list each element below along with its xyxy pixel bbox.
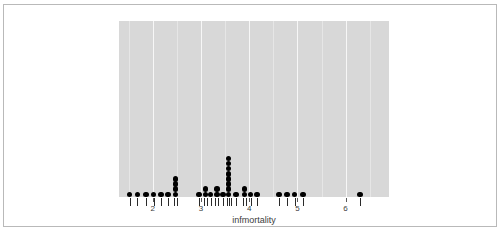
dot-plot-series xyxy=(119,21,389,197)
data-dot xyxy=(284,192,290,198)
data-dot xyxy=(226,192,232,198)
data-dot xyxy=(135,192,141,198)
x-axis-tick-layer xyxy=(119,198,389,203)
data-dot xyxy=(292,192,298,198)
data-dot xyxy=(173,186,179,192)
x-axis-tick-label: 6 xyxy=(343,204,347,214)
x-axis-tick-label: 4 xyxy=(247,204,251,214)
data-dot xyxy=(214,186,220,192)
data-dot xyxy=(173,192,179,198)
x-axis-tick xyxy=(153,198,154,202)
data-dot xyxy=(173,176,179,182)
data-dot xyxy=(300,192,306,198)
data-dot xyxy=(276,192,282,198)
x-axis-tick xyxy=(201,198,202,202)
x-axis-tick-label: 2 xyxy=(150,204,154,214)
data-dot xyxy=(173,181,179,187)
x-axis-tick xyxy=(297,198,298,202)
data-dot xyxy=(254,192,260,198)
data-dot xyxy=(226,176,232,182)
data-dot xyxy=(248,192,254,198)
data-dot xyxy=(242,186,248,192)
data-dot xyxy=(127,192,133,198)
data-dot xyxy=(158,192,164,198)
x-axis-tick-label: 5 xyxy=(295,204,299,214)
data-dot xyxy=(203,186,209,192)
data-dot xyxy=(357,192,363,198)
data-dot xyxy=(151,192,157,198)
plot-panel xyxy=(119,21,389,197)
x-axis-tick xyxy=(249,198,250,202)
data-dot xyxy=(226,156,232,162)
data-dot xyxy=(208,192,214,198)
data-dot xyxy=(226,171,232,177)
x-axis-title: infmortality xyxy=(119,215,389,226)
data-dot xyxy=(226,161,232,167)
data-dot xyxy=(214,192,220,198)
data-dot xyxy=(196,192,202,198)
figure-frame: 23456 infmortality xyxy=(3,4,497,227)
data-dot xyxy=(165,192,171,198)
data-dot xyxy=(226,186,232,192)
data-dot xyxy=(226,181,232,187)
x-axis-tick xyxy=(346,198,347,202)
data-dot xyxy=(226,166,232,172)
data-dot xyxy=(143,192,149,198)
x-axis-tick-label: 3 xyxy=(199,204,203,214)
data-dot xyxy=(242,192,248,198)
data-dot xyxy=(233,192,239,198)
